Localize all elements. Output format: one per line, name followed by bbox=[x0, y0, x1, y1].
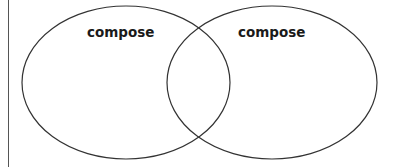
venn-label-right: compose bbox=[238, 24, 305, 40]
venn-diagram bbox=[0, 0, 396, 167]
venn-label-left: compose bbox=[87, 24, 154, 40]
